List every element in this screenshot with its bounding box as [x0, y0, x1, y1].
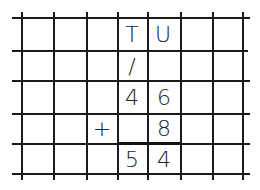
- grid-line: [53, 12, 55, 180]
- carry-tens: /: [117, 51, 147, 81]
- grid-line: [212, 12, 214, 180]
- grid-line: [242, 12, 244, 180]
- grid-line: [21, 12, 23, 180]
- grid-line: [12, 113, 250, 115]
- result-units: 4: [149, 144, 179, 174]
- result-tens: 5: [117, 144, 147, 174]
- header-tens: T: [117, 19, 147, 49]
- addend1-units: 6: [149, 82, 179, 112]
- plus-operator: +: [87, 113, 117, 143]
- header-units: U: [148, 19, 178, 49]
- grid-line: [86, 12, 88, 180]
- grid-line: [180, 12, 182, 180]
- addend1-tens: 4: [117, 82, 147, 112]
- addend2-units: 8: [149, 113, 179, 143]
